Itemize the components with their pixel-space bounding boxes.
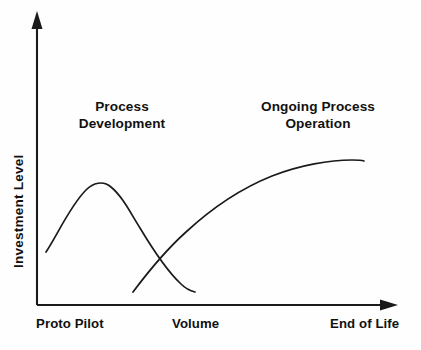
- annotation-ongoing-process-line1: Ongoing Process: [238, 98, 398, 115]
- chart-figure: Investment Level Proto Pilot Volume End …: [0, 0, 421, 350]
- annotation-ongoing-process: Ongoing Process Operation: [238, 98, 398, 133]
- y-axis-arrow-icon: [32, 11, 43, 29]
- curve-ongoing-process-operation: [133, 160, 364, 292]
- x-axis-arrow-icon: [380, 300, 398, 311]
- curve-process-development: [46, 183, 195, 292]
- x-axis-label-volume: Volume: [172, 316, 219, 333]
- annotation-process-development: Process Development: [52, 98, 192, 133]
- y-axis-title: Investment Level: [10, 154, 27, 268]
- x-axis-label-end-of-life: End of Life: [330, 316, 399, 333]
- annotation-process-development-line2: Development: [52, 115, 192, 132]
- chart-plot-area: [0, 0, 421, 350]
- x-axis-label-proto-pilot: Proto Pilot: [36, 316, 104, 333]
- annotation-process-development-line1: Process: [52, 98, 192, 115]
- annotation-ongoing-process-line2: Operation: [238, 115, 398, 132]
